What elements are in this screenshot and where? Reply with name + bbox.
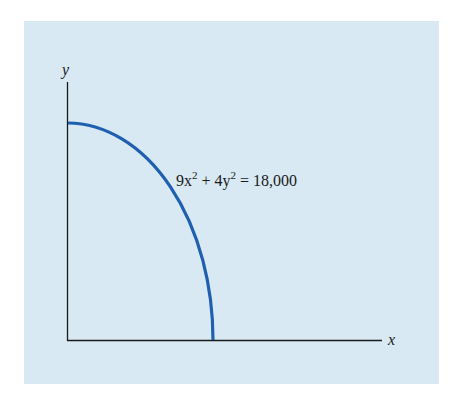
equation-label: 9x2 + 4y2 = 18,000 — [176, 169, 297, 190]
ellipse-figure: y x 9x2 + 4y2 = 18,000 — [0, 0, 455, 401]
ellipse-curve — [68, 123, 213, 340]
x-axis-label: x — [387, 331, 395, 348]
y-axis-label: y — [60, 61, 70, 79]
